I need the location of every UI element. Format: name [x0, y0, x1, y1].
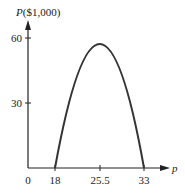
x-tick-label-33: 33 [139, 174, 151, 186]
y-tick-label-30: 30 [11, 97, 23, 109]
y-tick-label-60: 60 [11, 32, 23, 44]
x-axis-label: p [171, 162, 178, 174]
profit-chart: P($1,000) 60 30 0 18 25.5 33 p [0, 0, 185, 194]
y-axis-label: P($1,000) [15, 6, 61, 19]
x-tick-label-0: 0 [25, 174, 31, 186]
y-axis-arrow-icon [25, 20, 31, 30]
x-tick-label-25-5: 25.5 [90, 174, 110, 186]
profit-curve [55, 44, 144, 168]
x-tick-label-18: 18 [50, 174, 62, 186]
x-axis-arrow-icon [160, 165, 170, 171]
